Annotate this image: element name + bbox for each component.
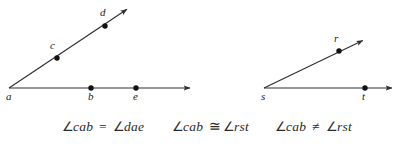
ray-ac [9,9,127,88]
angle-symbol-icon: ∠ [172,119,184,134]
caption-operator: ≠ [312,119,319,134]
ray-sr [264,41,363,89]
caption-left-term: cab [286,119,306,134]
left-angle-diagram: a b e c d [6,6,190,102]
caption-operator: = [99,119,107,134]
point-r-dot [336,48,341,53]
caption-equal: ∠ cab = ∠ dae [62,119,144,134]
point-label-r: r [334,32,339,44]
point-c-dot [54,55,59,60]
caption-not-equal: ∠ cab ≠ ∠ rst [275,119,353,134]
caption-left-term: cab [183,119,203,134]
point-label-d: d [100,6,106,18]
right-angle-diagram: s t r [261,32,392,102]
point-label-c: c [50,39,55,51]
point-label-t: t [362,90,366,102]
caption-right-term: rst [234,119,250,134]
angle-symbol-icon: ∠ [275,119,287,134]
point-label-e: e [133,90,138,102]
caption-operator: ≅ [209,119,221,134]
angle-symbol-icon: ∠ [62,119,74,134]
caption-right-term: dae [124,119,144,134]
caption-left-term: cab [73,119,93,134]
point-label-b: b [88,90,94,102]
angle-symbol-icon: ∠ [223,119,235,134]
vertex-label-a: a [6,90,12,102]
geometry-figure: a b e c d s t r ∠ cab = ∠ dae [0,0,409,151]
angle-symbol-icon: ∠ [326,119,338,134]
caption-right-term: rst [337,119,353,134]
caption-row: ∠ cab = ∠ dae ∠ cab ≅ ∠ rst ∠ cab ≠ ∠ rs… [62,119,353,134]
caption-congruent: ∠ cab ≅ ∠ rst [172,119,250,134]
vertex-label-s: s [261,90,265,102]
angle-symbol-icon: ∠ [113,119,125,134]
figure-page: a b e c d s t r ∠ cab = ∠ dae [0,0,409,151]
point-d-dot [102,23,107,28]
